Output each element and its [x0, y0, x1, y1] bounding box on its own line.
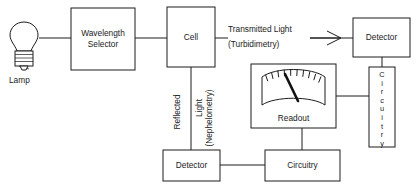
- cell-label: Cell: [184, 32, 198, 42]
- wavelength-selector-label-line2: Selector: [88, 39, 119, 49]
- cell-box[interactable]: Cell: [167, 7, 215, 67]
- diagram-svg: Lamp Wavelength Selector Cell Transmitte…: [0, 0, 416, 186]
- block-diagram-canvas: Lamp Wavelength Selector Cell Transmitte…: [0, 0, 416, 186]
- wavelength-selector-label-line1: Wavelength: [81, 28, 125, 38]
- detector-top-label: Detector: [366, 32, 398, 42]
- detector-top-box[interactable]: Detector: [353, 18, 410, 57]
- detector-bottom-label: Detector: [176, 160, 208, 170]
- readout-label: Readout: [278, 113, 310, 123]
- lamp-label: Lamp: [9, 75, 30, 85]
- transmitted-light-label-line1: Transmitted Light: [228, 24, 292, 34]
- transmitted-light-label-line2: (Turbidimetry): [228, 39, 280, 49]
- detector-bottom-box[interactable]: Detector: [163, 150, 220, 181]
- circuitry-bottom-box[interactable]: Circuitry: [265, 150, 340, 181]
- right-arrow-icon: [310, 31, 341, 45]
- nephelometry-label-line1: Light: [194, 98, 204, 117]
- circuitry-bottom-label: Circuitry: [287, 160, 318, 170]
- light-bulb-icon: [10, 22, 38, 70]
- circuitry-vertical-letter: y: [380, 139, 384, 148]
- reflected-light-label: Reflected: [172, 94, 182, 129]
- nephelometry-label-line2: (Nephelometry): [204, 89, 214, 146]
- wavelength-selector-box[interactable]: Wavelength Selector: [71, 8, 135, 70]
- readout-box[interactable]: Readout: [251, 64, 336, 128]
- circuitry-vertical-box[interactable]: C i r c u i t r y: [369, 67, 395, 148]
